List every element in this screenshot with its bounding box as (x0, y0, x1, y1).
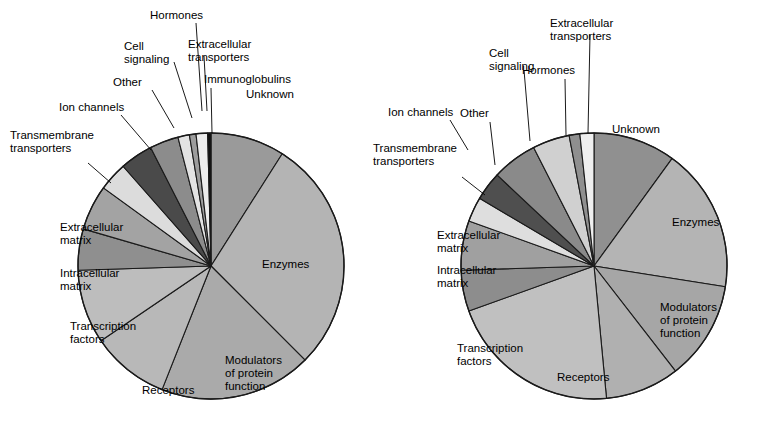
callout-label: Ion channels (388, 106, 453, 118)
leader-line (588, 35, 590, 133)
slice-label: Receptors (142, 384, 195, 396)
leader-line (524, 70, 530, 141)
slice-label: Enzymes (262, 258, 310, 270)
leader-line (196, 23, 202, 111)
callout-label: Immunoglobulins (204, 73, 291, 85)
callout-label: Other (460, 107, 489, 119)
callout-label: Extracellulartransporters (550, 17, 613, 42)
right-pie: UnknownEnzymesModulators of protein func… (373, 17, 727, 399)
leader-line (152, 90, 174, 128)
slice-label: Unknown (612, 123, 660, 135)
figure-canvas: UnknownEnzymesModulators of protein func… (0, 0, 772, 445)
leader-line (121, 115, 151, 150)
leader-line (174, 62, 192, 118)
leader-line (211, 88, 212, 133)
leader-line (88, 163, 111, 183)
callout-label: Hormones (522, 64, 575, 76)
callout-label: Other (113, 76, 142, 88)
callout-label: Transmembranetransporters (10, 129, 94, 154)
callout-label: Cellsignaling (124, 40, 169, 65)
slice-label: Receptors (557, 371, 610, 383)
left-pie: UnknownEnzymesModulators of protein func… (10, 9, 344, 399)
leader-line (490, 122, 495, 165)
leader-line (565, 79, 566, 135)
slice-label: Unknown (246, 88, 294, 100)
callout-label: Hormones (150, 9, 203, 21)
slice-label: Enzymes (672, 216, 720, 228)
pie-charts-svg: UnknownEnzymesModulators of protein func… (0, 0, 772, 445)
callout-label: Transmembranetransporters (373, 142, 457, 167)
callout-label: Extracellulartransporters (188, 38, 251, 63)
leader-line (462, 177, 485, 195)
callout-label: Ion channels (59, 101, 124, 113)
